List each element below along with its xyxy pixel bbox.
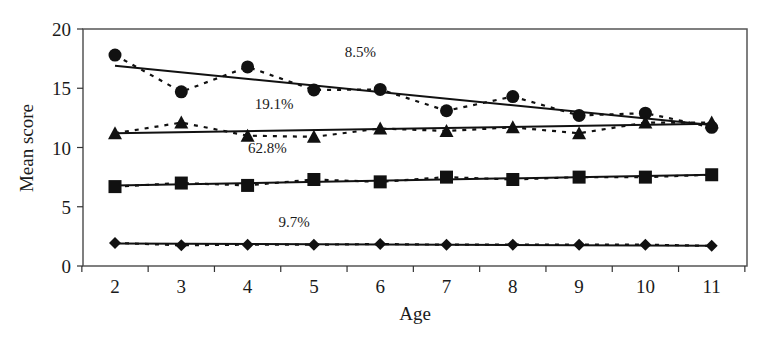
square-marker: [109, 180, 122, 193]
square-marker: [440, 171, 453, 184]
circle-marker: [109, 49, 122, 62]
y-tick-label: 5: [62, 197, 72, 218]
x-tick-label: 11: [703, 276, 721, 297]
x-tick-label: 3: [177, 276, 187, 297]
x-tick-label: 4: [243, 276, 253, 297]
y-axis-label: Mean score: [16, 104, 37, 192]
x-tick-label: 9: [574, 276, 584, 297]
circle-marker: [175, 85, 188, 98]
square-marker: [307, 173, 320, 186]
y-tick-label: 10: [52, 138, 71, 159]
circle-marker: [440, 104, 453, 117]
y-axis: 05101520: [52, 19, 83, 277]
circle-marker: [241, 60, 254, 73]
square-marker: [175, 177, 188, 190]
square-marker: [705, 168, 718, 181]
x-tick-label: 6: [375, 276, 385, 297]
x-tick-label: 8: [508, 276, 518, 297]
circle-marker: [573, 109, 586, 122]
percentage-annotation: 19.1%: [255, 96, 294, 112]
y-tick-label: 0: [62, 256, 72, 277]
x-tick-label: 2: [110, 276, 120, 297]
chart: 05101520 234567891011 8.5%19.1%62.8%9.7%…: [0, 0, 766, 341]
circle-marker: [374, 83, 387, 96]
plot-area: [83, 29, 747, 266]
circle-marker: [506, 90, 519, 103]
x-tick-label: 7: [442, 276, 452, 297]
x-axis-label: Age: [399, 303, 431, 324]
percentage-annotation: 62.8%: [248, 140, 287, 156]
percentage-annotation: 9.7%: [278, 214, 309, 230]
x-axis: 234567891011: [82, 266, 745, 297]
square-marker: [573, 171, 586, 184]
circle-marker: [307, 84, 320, 97]
square-marker: [374, 175, 387, 188]
square-marker: [506, 173, 519, 186]
y-tick-label: 20: [52, 19, 71, 40]
x-tick-label: 5: [309, 276, 319, 297]
x-tick-label: 10: [636, 276, 655, 297]
square-marker: [241, 179, 254, 192]
y-tick-label: 15: [52, 78, 71, 99]
square-marker: [639, 171, 652, 184]
percentage-annotation: 8.5%: [345, 44, 376, 60]
